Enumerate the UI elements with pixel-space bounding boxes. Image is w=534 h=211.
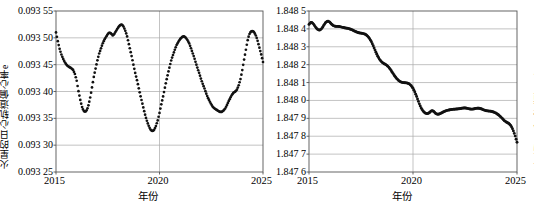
x-axis-title-left: 年份 xyxy=(138,192,158,203)
x-tick-label: 2025 xyxy=(505,176,526,187)
x-tick-label: 2020 xyxy=(401,176,422,187)
figure-container: 火星的日心轨道偏心率e 年份 0.093 550.093 500.093 450… xyxy=(0,0,534,211)
x-tick-label: 2020 xyxy=(148,176,169,187)
x-tick-label: 2015 xyxy=(44,176,65,187)
x-axis-title-right: 年份 xyxy=(392,192,412,203)
y-tick-label: 1.847 7 xyxy=(276,149,306,159)
y-tick-label: 0.093 40 xyxy=(18,87,53,97)
y-tick-label: 1.847 9 xyxy=(276,113,306,123)
y-tick-label: 0.093 30 xyxy=(18,140,53,150)
y-tick-label: 1.848 5 xyxy=(276,6,306,16)
chart-panel-left: 火星的日心轨道偏心率e 年份 0.093 550.093 500.093 450… xyxy=(0,0,267,211)
y-tick-label: 1.847 8 xyxy=(276,131,306,141)
y-tick-label: 1.848 2 xyxy=(276,60,306,70)
y-tick-label: 0.093 55 xyxy=(18,6,53,16)
y-tick-label: 0.093 50 xyxy=(18,33,53,43)
y-tick-label: 1.848 3 xyxy=(276,42,306,52)
x-tick-label: 2015 xyxy=(297,176,318,187)
y-tick-label: 1.848 1 xyxy=(276,78,306,88)
y-tick-label: 0.093 35 xyxy=(18,113,53,123)
chart-panel-right: 火星的日心轨道倾角i(°) 年份 1.848 51.848 41.848 31.… xyxy=(267,0,534,211)
y-tick-label: 1.848 4 xyxy=(276,24,306,34)
y-tick-label: 1.848 0 xyxy=(276,95,306,105)
y-tick-label: 0.093 45 xyxy=(18,60,53,70)
